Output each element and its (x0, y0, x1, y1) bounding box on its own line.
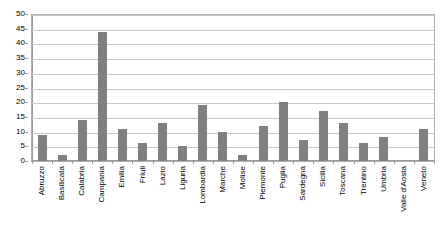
x-label-slot: Lombardia (193, 165, 213, 233)
bar-slot (374, 14, 394, 161)
y-tick-mark (24, 73, 28, 74)
x-label-slot: Campania (92, 165, 112, 233)
x-label-slot: Lazio (153, 165, 173, 233)
bar-slot (313, 14, 333, 161)
x-tick-label: Abruzzo (38, 166, 46, 195)
x-label-slot: Molise (233, 165, 253, 233)
x-label-slot: Puglia (273, 165, 293, 233)
bar-slot (293, 14, 313, 161)
x-tick-label: Molise (239, 166, 247, 189)
x-tick-label: Basilicata (58, 166, 66, 200)
bar-slot (72, 14, 92, 161)
x-tick-label: Lazio (159, 166, 167, 185)
bar-slot (354, 14, 374, 161)
x-tick-label: Trentino (360, 166, 368, 195)
bar (319, 111, 328, 161)
y-tick-mark (24, 117, 28, 118)
x-tick-mark (173, 161, 174, 164)
x-tick-mark (434, 161, 435, 164)
bar-slot (253, 14, 273, 161)
x-tick-mark (374, 161, 375, 164)
x-tick-mark (52, 161, 53, 164)
bar-slot (193, 14, 213, 161)
bar (78, 120, 87, 161)
x-tick-mark (153, 161, 154, 164)
x-label-slot: Toscana (333, 165, 353, 233)
x-tick-mark (213, 161, 214, 164)
bar-slot (233, 14, 253, 161)
x-tick-label: Valle d'Aosta (400, 166, 408, 212)
x-tick-mark (354, 161, 355, 164)
bar (259, 126, 268, 161)
bar-slot (273, 14, 293, 161)
x-tick-label: Liguria (179, 166, 187, 190)
x-tick-mark (293, 161, 294, 164)
x-tick-label: Campania (98, 166, 106, 202)
x-tick-mark (193, 161, 194, 164)
bar-slot (414, 14, 434, 161)
bar (379, 137, 388, 161)
x-tick-mark (313, 161, 314, 164)
x-tick-label: Puglia (279, 166, 287, 188)
x-label-slot: Emilia (112, 165, 132, 233)
bar-slot (112, 14, 132, 161)
x-label-slot: Sicilia (313, 165, 333, 233)
bar (38, 135, 47, 161)
bar-slot (394, 14, 414, 161)
x-tick-label: Toscana (339, 166, 347, 196)
y-tick-mark (24, 102, 28, 103)
x-tick-label: Emilia (118, 166, 126, 188)
x-tick-label: Umbria (380, 166, 388, 192)
bar-slot (333, 14, 353, 161)
x-tick-label: Sicilia (319, 166, 327, 187)
x-tick-mark (92, 161, 93, 164)
x-label-slot: Calabria (72, 165, 92, 233)
x-label-slot: Sardegna (293, 165, 313, 233)
x-label-slot: Friuli (132, 165, 152, 233)
y-axis-labels: 05101520253035404550 (0, 14, 28, 162)
x-label-slot: Umbria (374, 165, 394, 233)
bar-slot (52, 14, 72, 161)
bar (198, 105, 207, 161)
x-tick-mark (233, 161, 234, 164)
y-tick-mark (24, 132, 28, 133)
bar (279, 102, 288, 161)
y-tick-mark (24, 161, 28, 162)
bar-chart: 05101520253035404550 AbruzzoBasilicataCa… (0, 0, 442, 235)
bar (178, 146, 187, 161)
bar (218, 132, 227, 161)
bar-slot (92, 14, 112, 161)
x-tick-label: Sardegna (299, 166, 307, 201)
bar-slot (173, 14, 193, 161)
bar-slot (132, 14, 152, 161)
bar (359, 143, 368, 161)
y-tick-mark (24, 29, 28, 30)
x-label-slot: Basilicata (52, 165, 72, 233)
x-tick-label: Calabria (78, 166, 86, 196)
x-label-slot: Veneto (414, 165, 434, 233)
x-tick-mark (112, 161, 113, 164)
bar (98, 32, 107, 161)
x-tick-label: Piemonte (259, 166, 267, 200)
y-tick-mark (24, 14, 28, 15)
x-tick-mark (72, 161, 73, 164)
y-tick-mark (24, 88, 28, 89)
y-tick-mark (24, 43, 28, 44)
x-tick-mark (394, 161, 395, 164)
x-tick-label: Friuli (139, 166, 147, 183)
bars-container (32, 14, 434, 161)
bar (299, 140, 308, 161)
x-tick-mark (414, 161, 415, 164)
x-label-slot: Piemonte (253, 165, 273, 233)
x-label-slot: Trentino (354, 165, 374, 233)
x-label-slot: Abruzzo (32, 165, 52, 233)
x-label-slot: Marche (213, 165, 233, 233)
x-tick-mark (132, 161, 133, 164)
y-tick-mark (24, 58, 28, 59)
x-axis-labels: AbruzzoBasilicataCalabriaCampaniaEmiliaF… (32, 165, 434, 233)
bar-slot (213, 14, 233, 161)
x-tick-mark (253, 161, 254, 164)
bar (138, 143, 147, 161)
bar (419, 129, 428, 161)
x-label-slot: Liguria (173, 165, 193, 233)
